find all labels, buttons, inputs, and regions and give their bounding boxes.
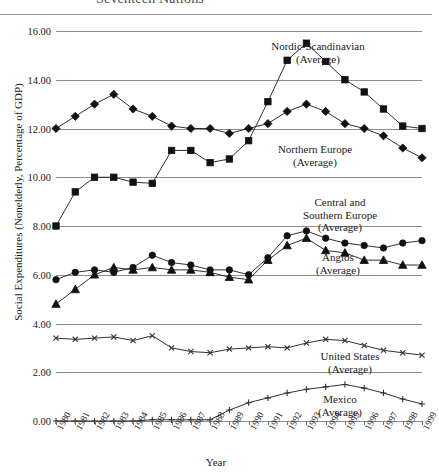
series-label-line: (Average) bbox=[271, 53, 364, 66]
y-axis-tick-label: 12.00 bbox=[27, 123, 51, 134]
gridline bbox=[56, 177, 422, 178]
series-label-central-southern-europe: Central andSouthern Europe(Average) bbox=[303, 196, 377, 234]
series-label-anglos: Anglos(Average) bbox=[316, 251, 360, 276]
y-axis-tick-label: 8.00 bbox=[33, 221, 51, 232]
series-label-mexico: Mexico(Average) bbox=[318, 393, 362, 418]
series-label-line: (Average) bbox=[278, 156, 352, 169]
series-label-line: (Average) bbox=[316, 264, 360, 277]
y-axis-tick-label: 2.00 bbox=[33, 367, 51, 378]
y-axis-tick-label: 0.00 bbox=[33, 416, 51, 427]
series-label-line: Anglos bbox=[316, 251, 360, 264]
gridline bbox=[56, 80, 422, 81]
top-divider-rule bbox=[0, 14, 432, 15]
y-axis-tick-label: 10.00 bbox=[27, 172, 51, 183]
gridline bbox=[56, 275, 422, 276]
gridline bbox=[56, 31, 422, 32]
series-label-line: United States bbox=[321, 350, 380, 363]
series-label-line: Nordic-Scandinavian bbox=[271, 40, 364, 53]
series-label-line: Mexico bbox=[318, 393, 362, 406]
series-label-line: Central and bbox=[303, 196, 377, 209]
y-axis-tick-label: 14.00 bbox=[27, 74, 51, 85]
gridline bbox=[56, 129, 422, 130]
series-label-line: Southern Europe bbox=[303, 209, 377, 222]
series-label-line: (Average) bbox=[303, 221, 377, 234]
gridline bbox=[56, 324, 422, 325]
series-label-nordic-scandinavian: Nordic-Scandinavian(Average) bbox=[271, 40, 364, 65]
chart-title: Seventeen Nations bbox=[0, 0, 300, 7]
series-label-line: (Average) bbox=[318, 406, 362, 419]
series-label-line: (Average) bbox=[321, 363, 380, 376]
x-axis-tick-label: 1999 bbox=[421, 410, 439, 431]
y-axis-tick-label: 6.00 bbox=[33, 269, 51, 280]
y-axis-tick-label: 4.00 bbox=[33, 318, 51, 329]
y-axis-label: Social Expenditures (Nonelderly, Percent… bbox=[12, 2, 24, 402]
series-label-united-states: United States(Average) bbox=[321, 350, 380, 375]
series-label-northern-europe: Northern Europe(Average) bbox=[278, 143, 352, 168]
series-label-line: Northern Europe bbox=[278, 143, 352, 156]
y-axis-tick-label: 16.00 bbox=[27, 26, 51, 37]
x-axis-label: Year bbox=[0, 456, 432, 468]
